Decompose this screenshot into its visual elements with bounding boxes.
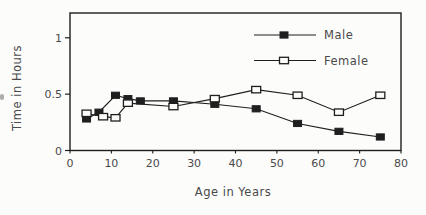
scan-smudge	[0, 94, 4, 100]
x-tick-label: 0	[67, 157, 74, 170]
x-tick-label: 30	[187, 157, 201, 170]
legend: MaleFemale	[254, 28, 369, 68]
x-tick-label: 40	[229, 157, 243, 170]
legend-marker	[280, 57, 289, 63]
female-marker	[293, 92, 302, 98]
legend-item-female: Female	[254, 54, 369, 68]
x-axis-title: Age in Years	[195, 185, 271, 199]
female-series	[82, 86, 385, 121]
x-tick-label: 50	[270, 157, 284, 170]
x-tick-label: 80	[394, 157, 408, 170]
y-axis-ticks: 00.51	[45, 32, 71, 158]
male-marker	[376, 134, 384, 140]
legend-label: Male	[324, 28, 353, 42]
female-marker	[169, 103, 178, 109]
female-marker	[82, 110, 91, 116]
legend-marker	[280, 32, 288, 38]
male-marker	[136, 98, 144, 104]
female-marker	[123, 100, 132, 106]
x-tick-label: 20	[146, 157, 160, 170]
female-marker	[376, 92, 385, 98]
female-marker	[210, 95, 219, 101]
female-marker	[99, 113, 108, 119]
male-marker	[252, 106, 260, 112]
x-tick-label: 60	[311, 157, 325, 170]
data-series	[82, 86, 385, 140]
legend-item-male: Male	[254, 28, 353, 42]
female-marker	[334, 109, 343, 115]
y-tick-label: 0.5	[45, 88, 63, 101]
y-tick-label: 0	[55, 145, 62, 158]
x-tick-label: 10	[104, 157, 118, 170]
chart-canvas: 00.51 01020304050607080 MaleFemale Age i…	[0, 0, 426, 215]
female-marker	[252, 86, 261, 92]
legend-label: Female	[324, 54, 369, 68]
male-marker	[294, 120, 302, 126]
male-marker	[112, 92, 120, 98]
chart-figure: 00.51 01020304050607080 MaleFemale Age i…	[0, 0, 426, 215]
x-tick-label: 70	[353, 157, 367, 170]
x-axis-ticks: 01020304050607080	[67, 151, 409, 171]
female-marker	[111, 115, 120, 121]
male-marker	[335, 128, 343, 134]
y-tick-label: 1	[55, 32, 62, 45]
y-axis-title: Time in Hours	[10, 45, 24, 132]
